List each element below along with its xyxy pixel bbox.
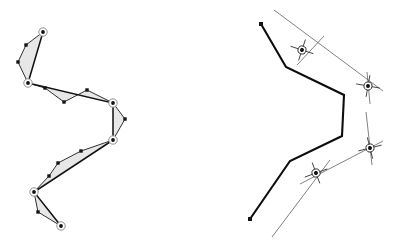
line-generalization-figure xyxy=(0,0,396,244)
vertex-dot xyxy=(16,60,19,63)
endpoint-dot xyxy=(248,217,252,221)
anchor-point xyxy=(109,99,117,107)
anchor-point xyxy=(57,222,65,230)
endpoint-dot xyxy=(259,22,263,26)
anchor-point xyxy=(39,28,47,36)
vertex-dot xyxy=(123,117,126,120)
vertex-dot xyxy=(36,210,39,213)
anchor-point xyxy=(109,136,117,144)
anchor-point xyxy=(24,79,32,87)
vertex-dot xyxy=(47,174,50,177)
vertex-dot xyxy=(56,161,59,164)
figure-root xyxy=(0,0,396,244)
vertex-dot xyxy=(62,100,65,103)
figure-background xyxy=(0,0,396,244)
vertex-dot xyxy=(85,88,88,91)
vertex-dot xyxy=(24,43,27,46)
vertex-dot xyxy=(79,149,82,152)
vertex-dot xyxy=(43,86,46,89)
anchor-point xyxy=(30,188,38,196)
